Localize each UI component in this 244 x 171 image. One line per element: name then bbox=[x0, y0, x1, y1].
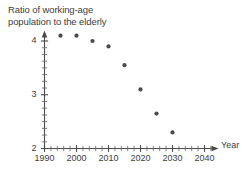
y-axis bbox=[42, 31, 47, 149]
x-axis-tick-label: 2020 bbox=[126, 153, 156, 163]
y-axis-tick-label: 2 bbox=[23, 143, 37, 153]
x-axis-tick-label: 2030 bbox=[158, 153, 188, 163]
data-point bbox=[122, 63, 126, 67]
data-point bbox=[170, 130, 174, 134]
data-point bbox=[138, 87, 142, 91]
chart-container: Ratio of working-age population to the e… bbox=[0, 0, 244, 171]
x-axis-tick-label: 2000 bbox=[62, 153, 92, 163]
x-axis-tick-label: 2010 bbox=[94, 153, 124, 163]
x-axis-tick-label: 2040 bbox=[190, 153, 220, 163]
x-axis-tick-label: 1990 bbox=[30, 153, 60, 163]
data-point bbox=[154, 111, 158, 115]
data-point-series bbox=[58, 34, 174, 135]
data-point bbox=[90, 39, 94, 43]
data-point bbox=[74, 34, 78, 38]
y-axis-tick-label: 3 bbox=[23, 89, 37, 99]
x-axis-title: Year bbox=[221, 140, 239, 150]
x-axis bbox=[45, 146, 219, 151]
y-axis-tick-label: 4 bbox=[23, 35, 37, 45]
chart-plot-area bbox=[0, 0, 244, 171]
data-point bbox=[106, 44, 110, 48]
data-point bbox=[58, 34, 62, 38]
